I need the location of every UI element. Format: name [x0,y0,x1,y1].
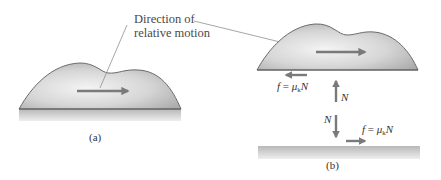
block-a [19,63,181,109]
panel-label-b: (b) [326,160,339,171]
friction-diagram: Direction of relative motion (a) (b) f =… [0,0,441,180]
floor-surface-b [258,146,420,159]
annotation-label: Direction of relative motion [134,13,210,39]
normal-symbol: N [386,123,393,135]
normal-label-block: N [341,92,348,103]
equals-sign: = [365,123,377,135]
annotation-line-2: relative motion [134,27,210,40]
friction-label-surface: f = μkN [362,124,393,137]
floor-surface-a [19,109,181,121]
annotation-line-1: Direction of [134,13,210,26]
panel-label-a: (a) [89,132,101,143]
panel-a [19,63,181,121]
equals-sign: = [280,80,292,92]
diagram-canvas [0,0,441,180]
normal-label-surface: N [324,114,331,125]
block-b [257,24,418,70]
normal-symbol: N [301,80,308,92]
friction-label-block: f = μkN [277,81,308,94]
